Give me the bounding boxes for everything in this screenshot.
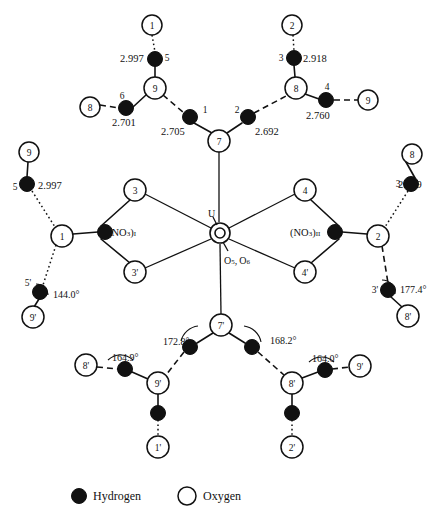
oxygen-atom: 9 bbox=[19, 142, 39, 162]
hydrogen-circle bbox=[245, 340, 260, 355]
nitrate-II-base: (NO bbox=[290, 227, 309, 239]
oxygen-index-label: 9 bbox=[366, 96, 371, 106]
oxygen-atom: 8' bbox=[281, 372, 303, 394]
oxygen-atom: 9 bbox=[144, 77, 166, 99]
bond-Hno3-2-O4 bbox=[311, 200, 339, 226]
oxygen-index-label: 7' bbox=[218, 321, 225, 331]
oxygen-index-label: 9 bbox=[153, 84, 158, 94]
axial-oxygen-symbol-1: O bbox=[224, 255, 231, 266]
hydrogen-circle bbox=[287, 51, 302, 66]
angle-label: 177.4° bbox=[400, 284, 427, 295]
hydrogen-circle bbox=[20, 177, 35, 192]
distance-label: 2.919 bbox=[398, 179, 422, 190]
uranium-center: U O5,O6 bbox=[208, 208, 250, 267]
oxygen-index-label: 9 bbox=[27, 148, 32, 158]
oxygen-atom: 8' bbox=[397, 305, 419, 327]
nitrate-II-label: (NO3)II bbox=[290, 227, 321, 239]
hydrogen-circle bbox=[318, 363, 333, 378]
bond-H3-O8 bbox=[294, 65, 295, 77]
bond-H3p-O8pright bbox=[391, 297, 402, 307]
bond-O9upleft-H5left bbox=[27, 162, 28, 177]
oxygen-index-label: 4' bbox=[302, 268, 309, 278]
oxygen-atom: 7' bbox=[210, 314, 232, 336]
oxygen-atom: 9 bbox=[358, 90, 378, 110]
distance-label: 2.692 bbox=[255, 126, 279, 137]
bond-O7p-H7pleft bbox=[197, 333, 213, 343]
hbond-H3right-O2right bbox=[385, 191, 408, 227]
hydrogen-atom: 2 bbox=[235, 105, 256, 125]
bond-H1-O7 bbox=[194, 123, 212, 133]
oxygen-atom: 4' bbox=[294, 261, 316, 283]
angle-label: 144.0° bbox=[53, 289, 80, 300]
oxygen-index-label: 8' bbox=[289, 379, 296, 389]
hydrogen-index-label: 6 bbox=[120, 91, 125, 101]
bond-O7-H2 bbox=[227, 123, 242, 133]
bond-O8-H4 bbox=[305, 94, 319, 99]
legend-hydrogen-swatch bbox=[72, 489, 87, 504]
oxygen-atom: 1 bbox=[51, 225, 73, 247]
angle-label: 164.9° bbox=[112, 352, 139, 363]
hydrogen-bonding-diagram: U O5,O6 (NO3)I (NO3)II 1298897981233'44'… bbox=[0, 0, 442, 517]
oxygen-index-label: 9' bbox=[357, 362, 364, 372]
uranium-label: U bbox=[208, 208, 216, 219]
hbond-H8pright-O9pfar bbox=[332, 367, 350, 369]
oxygen-atom: 4 bbox=[294, 179, 316, 201]
bond-O7p-H7pright bbox=[229, 333, 245, 343]
bond-O3-U bbox=[145, 194, 211, 228]
hydrogen-circle bbox=[151, 406, 166, 421]
legend-hydrogen-label: Hydrogen bbox=[93, 489, 141, 503]
figure-container: U O5,O6 (NO3)I (NO3)II 1298897981233'44'… bbox=[0, 0, 442, 517]
leader-axial-oxygen-label bbox=[223, 242, 228, 251]
distance-label: 2.918 bbox=[303, 53, 327, 64]
hydrogen-atom bbox=[118, 362, 133, 377]
hydrogen-circle bbox=[118, 362, 133, 377]
distance-label: 2.705 bbox=[161, 126, 185, 137]
oxygen-index-label: 8 bbox=[88, 103, 93, 113]
bond-H6-O9 bbox=[133, 95, 146, 107]
axial-oxygen-label: O5,O6 bbox=[224, 255, 250, 267]
hydrogen-atom bbox=[98, 225, 113, 240]
distance-label: 2.760 bbox=[306, 110, 330, 121]
oxygen-index-label: 9' bbox=[155, 379, 162, 389]
hydrogen-circle bbox=[119, 101, 134, 116]
hbond-O8pfar-H9pleft bbox=[97, 367, 118, 369]
angle-label-layer: 144.0°177.4°172.8°168.2°164.9°164.0° bbox=[53, 284, 427, 364]
oxygen-index-label: 8 bbox=[410, 150, 415, 160]
oxygen-index-label: 9' bbox=[30, 313, 37, 323]
oxygen-atom: 9' bbox=[147, 372, 169, 394]
oxygen-atom: 8' bbox=[75, 354, 97, 376]
hydrogen-circle bbox=[183, 110, 198, 125]
hydrogen-circle bbox=[148, 52, 163, 67]
oxygen-atom: 1' bbox=[147, 436, 169, 458]
hydrogen-index-label: 3 bbox=[279, 53, 284, 63]
hydrogen-atom bbox=[151, 406, 166, 421]
hbond-O1-H5 bbox=[152, 35, 155, 52]
oxygen-index-label: 3' bbox=[132, 268, 139, 278]
hydrogen-index-label: 5 bbox=[165, 53, 170, 63]
hydrogen-atom: 3' bbox=[372, 283, 396, 298]
hydrogen-atom: 4 bbox=[319, 82, 334, 108]
hydrogen-atom bbox=[318, 363, 333, 378]
hydrogen-circle bbox=[98, 225, 113, 240]
hydrogen-atom: 6 bbox=[119, 91, 134, 116]
bond-U-O7p bbox=[220, 244, 221, 314]
hbond-H7pright-O8pmid bbox=[258, 352, 284, 375]
hydrogen-atom: 1 bbox=[183, 105, 208, 125]
bond-O1left-Hno3-1 bbox=[73, 232, 98, 234]
hydrogen-circle bbox=[33, 285, 48, 300]
hydrogen-atom: 5' bbox=[25, 278, 48, 300]
oxygen-atom: 7 bbox=[208, 130, 230, 152]
bond-Hno3-2-O4p bbox=[311, 239, 339, 263]
legend-oxygen-label: Oxygen bbox=[203, 489, 241, 503]
hydrogen-index-label: 4 bbox=[325, 82, 330, 92]
angle-label: 168.2° bbox=[270, 335, 297, 346]
hydrogen-circle bbox=[285, 406, 300, 421]
bond-O2right-Hno3-2 bbox=[342, 232, 367, 234]
oxygen-index-label: 1' bbox=[155, 443, 162, 453]
hydrogen-circle bbox=[319, 93, 334, 108]
hbond-H7pleft-O9pmid bbox=[166, 352, 184, 375]
hbond-O2-H3 bbox=[293, 35, 294, 51]
oxygen-atom: 3 bbox=[124, 179, 146, 201]
oxygen-index-label: 2 bbox=[376, 232, 381, 242]
distance-label: 2.701 bbox=[112, 117, 136, 128]
